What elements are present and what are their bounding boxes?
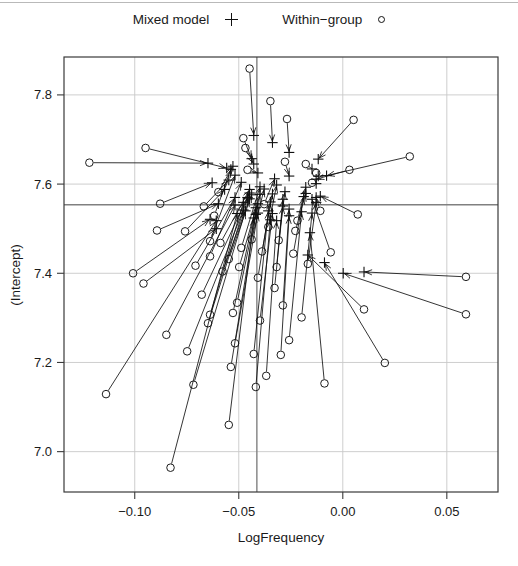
x-tick-label: 0.05 <box>434 504 459 519</box>
x-tick-label: 0.00 <box>330 504 355 519</box>
x-tick-label: −0.10 <box>118 504 151 519</box>
figure-root: Mixed model Within−group −0.10−0.050.000… <box>0 0 518 566</box>
y-tick-label: 7.2 <box>34 355 52 370</box>
y-tick-label: 7.6 <box>34 177 52 192</box>
y-tick-label: 7.0 <box>34 444 52 459</box>
y-tick-label: 7.4 <box>34 266 52 281</box>
x-tick-label: −0.05 <box>222 504 255 519</box>
y-axis-title: (Intercept) <box>8 244 23 306</box>
shrinkage-arrows <box>94 73 462 464</box>
within-group-markers <box>86 65 470 472</box>
scatter-plot: −0.10−0.050.000.05 7.07.27.47.67.8 LogFr… <box>0 0 518 566</box>
x-axis: −0.10−0.050.000.05 <box>118 492 459 519</box>
y-tick-label: 7.8 <box>34 87 52 102</box>
x-axis-title: LogFrequency <box>238 530 325 545</box>
y-axis: 7.07.27.47.67.8 <box>34 87 64 459</box>
